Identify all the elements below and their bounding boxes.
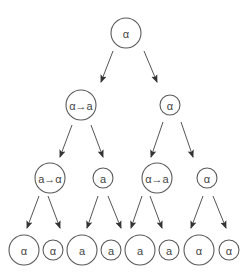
- node-label: α: [123, 28, 130, 40]
- edge-arrow-n1-n3: [60, 125, 72, 157]
- node-label: α: [50, 245, 57, 257]
- edges-layer: [27, 51, 226, 228]
- tree-node: α→a: [142, 163, 172, 193]
- edge-arrow-n3-n8: [48, 196, 60, 228]
- edge-arrow-n3-n7: [27, 196, 39, 228]
- tree-node: a: [159, 240, 179, 260]
- tree-node: a: [101, 240, 121, 260]
- node-label: α: [21, 245, 28, 257]
- node-label: a: [108, 245, 115, 257]
- edge-arrow-n0-n1: [101, 51, 113, 82]
- node-label: α: [204, 173, 211, 185]
- tree-node: α: [184, 235, 214, 265]
- edge-arrow-n5-n11: [131, 196, 142, 228]
- nodes-layer: αα→aαa→αaα→aαααaaaaαα: [9, 18, 239, 265]
- edge-arrow-n2-n6: [181, 122, 193, 157]
- tree-node: a: [67, 235, 97, 265]
- edge-arrow-n1-n4: [91, 125, 103, 157]
- node-label: α→a: [69, 100, 93, 112]
- tree-node: a: [125, 235, 155, 265]
- tree-node: α: [43, 240, 63, 260]
- node-label: a: [79, 245, 86, 257]
- node-label: α→a: [145, 173, 169, 185]
- tree-node: α: [197, 168, 217, 188]
- node-label: α: [226, 245, 233, 257]
- node-label: a: [166, 245, 173, 257]
- edge-arrow-n5-n12: [150, 196, 162, 228]
- tree-node: a: [93, 168, 113, 188]
- edge-arrow-n2-n5: [151, 122, 163, 157]
- tree-node: α: [111, 18, 141, 48]
- edge-arrow-n6-n14: [213, 196, 226, 228]
- node-label: α: [167, 100, 174, 112]
- tree-node: α: [9, 235, 39, 265]
- tree-node: α: [219, 240, 239, 260]
- tree-diagram: αα→aαa→αaα→aαααaaaaαα: [0, 0, 251, 278]
- edge-arrow-n6-n13: [191, 196, 203, 228]
- node-label: α: [196, 245, 203, 257]
- edge-arrow-n0-n2: [144, 51, 157, 82]
- node-label: a: [137, 245, 144, 257]
- tree-node: α: [160, 95, 180, 115]
- node-label: a: [100, 173, 107, 185]
- tree-node: α→a: [66, 90, 96, 120]
- edge-arrow-n4-n9: [87, 196, 98, 228]
- node-label: a→α: [38, 173, 62, 185]
- tree-node: a→α: [35, 163, 65, 193]
- edge-arrow-n4-n10: [108, 196, 121, 228]
